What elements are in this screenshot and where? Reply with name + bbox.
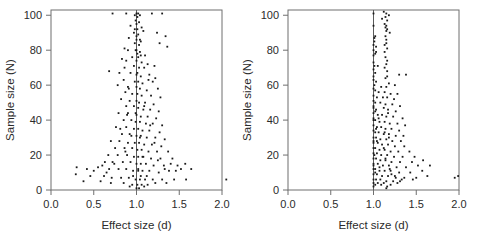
data-point	[138, 44, 140, 46]
data-point	[149, 109, 151, 111]
data-point	[403, 135, 405, 137]
data-point	[385, 187, 387, 189]
data-point	[373, 168, 375, 170]
data-point	[403, 177, 405, 179]
data-point	[124, 147, 126, 149]
data-point	[128, 88, 130, 90]
data-point	[115, 126, 117, 128]
data-point	[120, 98, 122, 100]
data-point	[132, 170, 134, 172]
data-point	[391, 128, 393, 130]
data-point	[147, 184, 149, 186]
data-point	[136, 16, 138, 18]
panel-right: 0.00.51.01.52.0020406080100Effect size (…	[237, 0, 479, 241]
y-tick-label: 0	[273, 184, 279, 196]
data-point	[373, 140, 375, 142]
y-tick-label: 20	[30, 149, 42, 161]
data-point	[133, 65, 135, 67]
data-point	[154, 142, 156, 144]
data-point	[134, 28, 136, 30]
y-tick-label: 80	[30, 44, 42, 56]
data-point	[172, 158, 174, 160]
data-point	[379, 179, 381, 181]
data-point	[383, 147, 385, 149]
data-point	[373, 100, 375, 102]
data-point	[225, 179, 227, 181]
data-point	[173, 179, 175, 181]
data-point	[131, 147, 133, 149]
data-point	[141, 184, 143, 186]
data-point	[147, 63, 149, 65]
data-point	[138, 187, 140, 189]
data-point	[150, 158, 152, 160]
data-point	[139, 179, 141, 181]
data-point	[391, 173, 393, 175]
data-point	[131, 184, 133, 186]
data-point	[373, 173, 375, 175]
data-point	[390, 170, 392, 172]
data-point	[140, 116, 142, 118]
data-point	[136, 60, 138, 62]
data-point	[422, 159, 424, 161]
data-point	[139, 88, 141, 90]
data-point	[159, 42, 161, 44]
data-point	[393, 156, 395, 158]
data-point	[135, 179, 137, 181]
data-point	[373, 163, 375, 165]
data-point	[377, 163, 379, 165]
data-point	[122, 161, 124, 163]
data-point	[128, 37, 130, 39]
data-point	[382, 96, 384, 98]
data-point	[394, 145, 396, 147]
data-point	[103, 175, 105, 177]
data-point	[136, 86, 138, 88]
data-point	[385, 159, 387, 161]
data-point	[134, 42, 136, 44]
data-point-layer	[373, 11, 459, 189]
data-point	[137, 13, 139, 15]
data-point	[136, 114, 138, 116]
data-point	[398, 74, 400, 76]
data-point	[386, 186, 388, 188]
data-point	[151, 144, 153, 146]
data-point	[403, 145, 405, 147]
data-point	[101, 165, 103, 167]
data-point	[373, 154, 375, 156]
data-point	[388, 14, 390, 16]
data-point	[124, 91, 126, 93]
data-point	[373, 152, 375, 154]
x-tick-label: 0.5	[323, 198, 338, 210]
data-point	[386, 20, 388, 22]
data-point	[384, 149, 386, 151]
data-point	[457, 175, 459, 177]
data-point	[110, 140, 112, 142]
data-point	[373, 76, 375, 78]
data-point	[148, 74, 150, 76]
data-point	[385, 16, 387, 18]
y-tick-label: 60	[267, 79, 279, 91]
data-point	[124, 151, 126, 153]
data-point	[130, 161, 132, 163]
data-point	[143, 186, 145, 188]
data-point	[144, 179, 146, 181]
data-point	[375, 137, 377, 139]
data-point	[379, 121, 381, 123]
data-point	[133, 128, 135, 130]
data-point	[374, 72, 376, 74]
data-point	[401, 179, 403, 181]
data-point	[373, 130, 375, 132]
data-point	[125, 13, 127, 15]
data-point	[386, 154, 388, 156]
data-point	[376, 152, 378, 154]
data-point	[397, 182, 399, 184]
data-point	[93, 170, 95, 172]
data-point	[405, 166, 407, 168]
data-point	[385, 42, 387, 44]
data-point	[130, 25, 132, 27]
data-point	[100, 180, 102, 182]
data-point	[379, 102, 381, 104]
data-point	[170, 163, 172, 165]
y-tick-label: 0	[36, 184, 42, 196]
data-point	[141, 62, 143, 64]
data-point	[89, 175, 91, 177]
